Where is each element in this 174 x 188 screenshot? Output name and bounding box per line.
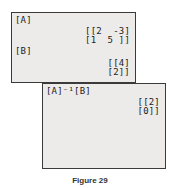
- matrix-b-row-2: [2]]: [108, 68, 130, 77]
- matrix-b-label: [B]: [15, 47, 32, 56]
- matrix-a-row-2: [1 5 ]]: [85, 36, 130, 45]
- calculator-screen-result: [A]⁻¹[B] [[2] [0]]: [42, 83, 166, 169]
- figure-caption: Figure 29: [0, 176, 174, 185]
- expression-line: [A]⁻¹[B]: [46, 87, 91, 96]
- result-row-2: [0]]: [138, 107, 160, 116]
- calculator-screen-matrices: [A] [[2 -3] [1 5 ]] [B] [[4] [2]]: [11, 12, 136, 83]
- matrix-a-label: [A]: [15, 16, 32, 25]
